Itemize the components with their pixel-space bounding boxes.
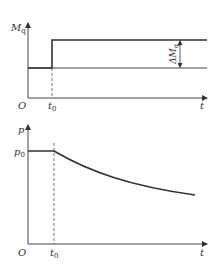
top-t0-label: t0 — [48, 100, 57, 113]
bottom-plot: p p0 O t0 t — [14, 124, 207, 260]
top-y-axis-label: Mq — [10, 22, 26, 35]
bottom-y-axis-label: p — [18, 124, 25, 135]
delta-mq-label: ΔMq — [168, 44, 180, 65]
top-plot: Mq O t0 t ΔMq — [10, 22, 207, 113]
diagram-canvas: Mq O t0 t ΔMq p p0 O t0 t — [0, 0, 223, 276]
bottom-origin-label: O — [18, 247, 26, 258]
p0-label: p0 — [14, 146, 25, 159]
top-x-axis-label: t — [200, 100, 205, 111]
bottom-t0-label: t0 — [50, 247, 59, 260]
bottom-x-axis-label: t — [200, 247, 205, 258]
pressure-decay-curve — [28, 151, 195, 195]
svg-text:ΔMq: ΔMq — [168, 44, 180, 65]
top-origin-label: O — [18, 100, 26, 111]
